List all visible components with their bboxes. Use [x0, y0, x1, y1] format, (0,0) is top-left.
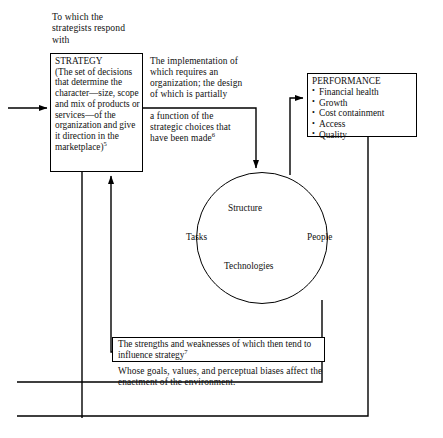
diagram-canvas: To which the strategists respond with ST… [0, 0, 443, 438]
strategy-box: STRATEGY(The set of decisions that deter… [50, 53, 143, 172]
performance-box-content: PERFORMANCE Financial health Growth Cost… [312, 76, 414, 141]
performance-item: Cost containment [312, 108, 414, 119]
caption-function-of-strategic-choices: a function of the strategic choices that… [150, 111, 245, 144]
strengths-weaknesses-text: The strengths and weaknesses of which th… [118, 339, 311, 360]
performance-box-title: PERFORMANCE [312, 76, 414, 87]
performance-item-list: Financial health Growth Cost containment… [312, 87, 414, 141]
strategy-box-title: STRATEGY [55, 56, 140, 67]
caption-implementation: The implementation of which requires an … [150, 56, 245, 100]
performance-item: Quality [312, 130, 414, 141]
caption-function-text: a function of the strategic choices that… [150, 111, 231, 143]
performance-item: Growth [312, 98, 414, 109]
performance-box: PERFORMANCE Financial health Growth Cost… [307, 73, 417, 137]
caption-to-which-strategists-respond: To which the strategists respond with [52, 11, 144, 45]
strategy-box-content: STRATEGY(The set of decisions that deter… [55, 56, 140, 153]
circle-node-people: People [307, 232, 332, 242]
arrow-circle-to-performance [290, 98, 303, 175]
circle-node-tasks: Tasks [186, 232, 207, 242]
strategy-box-footnote: 5 [104, 140, 107, 147]
strengths-weaknesses-content: The strengths and weaknesses of which th… [118, 339, 322, 361]
arrow-strengths-to-strategy [111, 176, 112, 352]
strengths-weaknesses-footnote: 7 [184, 348, 187, 355]
caption-goals-values-biases: Whose goals, values, and perceptual bias… [118, 366, 340, 388]
strengths-weaknesses-box: The strengths and weaknesses of which th… [112, 337, 325, 362]
performance-item: Access [312, 119, 414, 130]
caption-function-footnote: 6 [212, 131, 215, 138]
circle-node-structure: Structure [228, 203, 262, 213]
strategy-box-body: (The set of decisions that determine the… [55, 67, 140, 152]
performance-item: Financial health [312, 87, 414, 98]
circle-node-technologies: Technologies [224, 261, 273, 271]
